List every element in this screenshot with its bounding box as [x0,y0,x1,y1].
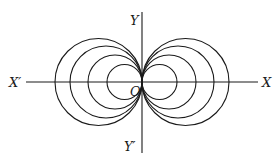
label-y-prime: Y′ [124,139,136,154]
label-x-prime: X′ [8,75,21,90]
label-origin: O [130,84,141,99]
label-x: X [261,75,272,90]
label-y: Y [130,13,140,28]
diagram-canvas: X X′ Y Y′ O [0,0,278,165]
